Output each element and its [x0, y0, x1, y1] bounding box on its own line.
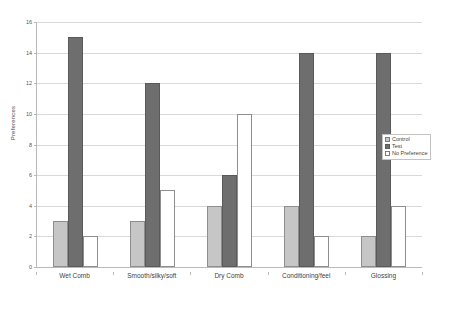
bar-no-preference	[391, 206, 406, 267]
legend-item-label: Test	[392, 144, 402, 150]
y-tick-label: 2	[29, 233, 32, 239]
bar-no-preference	[160, 190, 175, 267]
bar-control	[207, 206, 222, 267]
x-tick-label: Glossing	[345, 272, 422, 279]
x-tick-label: Wet Comb	[36, 272, 113, 279]
x-tick-mark	[190, 272, 191, 275]
y-tick-label: 14	[26, 50, 32, 56]
y-tick-label: 8	[29, 142, 32, 148]
x-tick-mark	[345, 272, 346, 275]
legend-item[interactable]: Control	[385, 137, 427, 143]
y-tick-label: 0	[29, 264, 32, 270]
bar-control	[130, 221, 145, 267]
chart-legend: ControlTestNo Preference	[382, 134, 431, 160]
x-tick-mark	[268, 272, 269, 275]
bar-test	[145, 83, 160, 267]
y-tick-mark	[34, 267, 37, 268]
legend-item[interactable]: No Preference	[385, 151, 427, 157]
bar-test	[68, 37, 83, 267]
legend-item[interactable]: Test	[385, 144, 427, 150]
legend-swatch-icon	[385, 151, 390, 156]
x-tick-mark	[422, 272, 423, 275]
bar-chart: Preferences 0246810121416 Wet CombSmooth…	[0, 0, 459, 313]
x-axis-labels: Wet CombSmooth/silky/softDry CombConditi…	[36, 272, 422, 279]
plot-area: 0246810121416	[36, 22, 422, 268]
y-tick-label: 12	[26, 80, 32, 86]
bar-group	[37, 22, 114, 267]
x-tick-label: Smooth/silky/soft	[113, 272, 190, 279]
bar-group	[191, 22, 268, 267]
y-tick-label: 4	[29, 203, 32, 209]
bar-test	[376, 53, 391, 267]
bar-no-preference	[314, 236, 329, 267]
x-tick-mark	[36, 272, 37, 275]
bar-group	[114, 22, 191, 267]
y-axis-title: Preferences	[10, 78, 16, 168]
bar-test	[222, 175, 237, 267]
bar-control	[284, 206, 299, 267]
x-tick-mark	[113, 272, 114, 275]
y-tick-label: 10	[26, 111, 32, 117]
bar-group	[268, 22, 345, 267]
legend-item-label: Control	[392, 137, 410, 143]
y-tick-label: 6	[29, 172, 32, 178]
legend-swatch-icon	[385, 144, 390, 149]
legend-item-label: No Preference	[392, 151, 427, 157]
bar-no-preference	[83, 236, 98, 267]
x-tick-label: Conditioning/feel	[268, 272, 345, 279]
bar-control	[361, 236, 376, 267]
x-tick-label: Dry Comb	[190, 272, 267, 279]
bar-control	[53, 221, 68, 267]
bar-no-preference	[237, 114, 252, 267]
y-tick-label: 16	[26, 19, 32, 25]
legend-swatch-icon	[385, 137, 390, 142]
bars-layer	[37, 22, 422, 267]
bar-test	[299, 53, 314, 267]
